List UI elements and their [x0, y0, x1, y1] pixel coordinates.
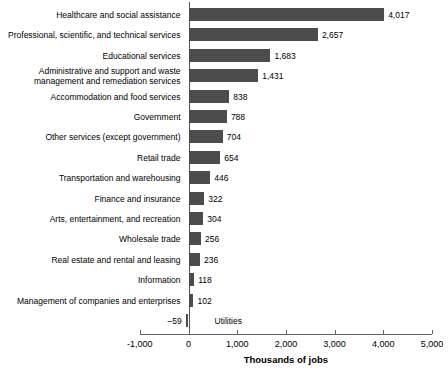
category-label: Educational services: [0, 51, 181, 61]
bar[interactable]: [189, 171, 211, 184]
category-label: Arts, entertainment, and recreation: [0, 214, 181, 224]
x-axis-tick: [140, 330, 141, 334]
x-axis-tick: [189, 330, 190, 334]
x-axis-title: Thousands of jobs: [140, 354, 432, 365]
value-label: 654: [224, 153, 238, 163]
value-label: 118: [198, 275, 212, 285]
value-label: 704: [227, 132, 241, 142]
bar[interactable]: [189, 192, 205, 205]
bar[interactable]: [189, 294, 194, 307]
value-label: 4,017: [388, 10, 409, 20]
category-label: Real estate and rental and leasing: [0, 255, 181, 265]
category-label: Transportation and warehousing: [0, 173, 181, 183]
bar[interactable]: [189, 28, 318, 41]
value-label: 838: [233, 92, 247, 102]
category-label: Wholesale trade: [0, 234, 181, 244]
bar[interactable]: [189, 69, 259, 82]
value-label: 2,657: [322, 30, 343, 40]
x-axis-line: [140, 334, 432, 335]
bar[interactable]: [189, 8, 385, 21]
x-axis-tick: [335, 330, 336, 334]
bar[interactable]: [189, 253, 200, 266]
category-label: Administrative and support and waste man…: [0, 66, 181, 86]
value-label: 446: [214, 173, 228, 183]
value-label: 1,683: [274, 51, 295, 61]
x-axis-tick: [383, 330, 384, 334]
category-label: Government: [0, 112, 181, 122]
bar[interactable]: [189, 90, 230, 103]
category-label: Healthcare and social assistance: [0, 10, 181, 20]
x-axis-tick: [237, 330, 238, 334]
bar[interactable]: [189, 273, 195, 286]
category-label: Information: [0, 275, 181, 285]
value-label: 788: [231, 112, 245, 122]
category-label: Finance and insurance: [0, 194, 181, 204]
value-label: 102: [197, 296, 211, 306]
category-label: Management of companies and enterprises: [0, 296, 181, 306]
value-label: 236: [204, 255, 218, 265]
bar[interactable]: [189, 130, 223, 143]
category-label: Other services (except government): [0, 132, 181, 142]
bar[interactable]: [189, 212, 204, 225]
category-label: Professional, scientific, and technical …: [0, 30, 181, 40]
value-label: 304: [207, 214, 221, 224]
category-label: Accommodation and food services: [0, 92, 181, 102]
x-axis-tick: [432, 330, 433, 334]
x-axis-tick: [286, 330, 287, 334]
bar[interactable]: [189, 232, 201, 245]
value-label: –59: [122, 316, 182, 326]
bar[interactable]: [186, 314, 189, 327]
bar[interactable]: [189, 151, 221, 164]
bar[interactable]: [189, 49, 271, 62]
value-label: 322: [208, 194, 222, 204]
category-label: Retail trade: [0, 153, 181, 163]
value-label: 1,431: [262, 71, 283, 81]
x-axis-tick-label: 5,000: [402, 339, 448, 350]
bar[interactable]: [189, 110, 227, 123]
value-label: 256: [205, 234, 219, 244]
category-label: Utilities: [215, 316, 335, 326]
